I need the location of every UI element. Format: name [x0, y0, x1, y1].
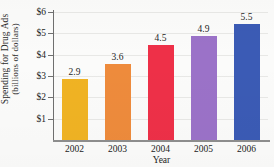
bar-group: 2.9 [53, 10, 96, 141]
bar-value-label: 3.6 [112, 52, 124, 62]
y-axis-tick [48, 76, 54, 77]
y-axis-tick [48, 33, 54, 34]
bar[interactable] [191, 36, 217, 141]
y-axis-tick [48, 12, 54, 13]
y-axis-tick-label: $5 [20, 28, 46, 38]
y-axis-tick-labels: $1$2$3$4$5$6 [14, 0, 46, 167]
x-axis-tick-label: 2002 [65, 144, 84, 154]
x-axis-tick-label: 2004 [151, 144, 170, 154]
bar-group: 4.5 [139, 10, 182, 141]
x-axis-tick-label: 2003 [108, 144, 127, 154]
y-axis-tick [48, 97, 54, 98]
bar-group: 4.9 [182, 10, 225, 141]
plot-area: 2.93.64.54.95.5 [53, 10, 268, 141]
y-axis-tick-label: $1 [20, 114, 46, 124]
y-axis-tick-label: $6 [20, 7, 46, 17]
y-axis-tick [48, 119, 54, 120]
bar-group: 5.5 [225, 10, 268, 141]
bar-value-label: 2.9 [69, 67, 81, 77]
y-axis-tick-label: $4 [20, 50, 46, 60]
y-axis-tick [48, 55, 54, 56]
y-axis-title-line1: Spending for Drug Ads [1, 0, 11, 123]
bar-value-label: 4.5 [155, 33, 167, 43]
bar-value-label: 5.5 [241, 12, 253, 22]
x-axis-tick-label: 2005 [194, 144, 213, 154]
bar[interactable] [234, 24, 260, 141]
bar-value-label: 4.9 [198, 24, 210, 34]
bar[interactable] [105, 64, 131, 141]
bar-group: 3.6 [96, 10, 139, 141]
x-axis-line [53, 140, 270, 142]
x-axis-tick-label: 2006 [237, 144, 256, 154]
y-axis-tick-label: $3 [20, 71, 46, 81]
x-axis-title: Year [53, 155, 270, 165]
bar-chart: Spending for Drug Ads (billions of dolla… [0, 0, 274, 167]
bar[interactable] [148, 45, 174, 141]
bar[interactable] [62, 79, 88, 141]
y-axis-tick-label: $2 [20, 92, 46, 102]
